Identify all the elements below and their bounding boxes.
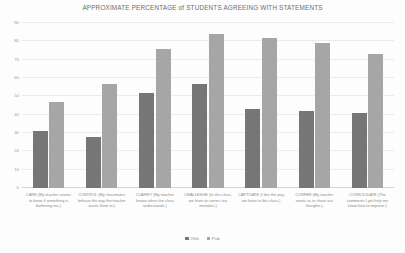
legend-swatch xyxy=(185,237,188,240)
plot-area: 9080706050403020100 xyxy=(22,23,394,188)
chart-title: APPROXIMATE PERCENTAGE of STUDENTS AGREE… xyxy=(0,4,405,11)
y-axis-tick-label: 10 xyxy=(14,166,19,171)
x-axis-tick-label: CONSOLIDATE (The comments I get help me … xyxy=(341,192,394,209)
bar xyxy=(102,84,117,189)
bar xyxy=(33,131,48,188)
bar xyxy=(139,93,154,188)
bar-group xyxy=(341,23,394,188)
bar-group xyxy=(22,23,75,188)
bar-group xyxy=(288,23,341,188)
x-axis-tick-label: CARE (My teacher seems to know if someth… xyxy=(22,192,75,209)
bar xyxy=(315,43,330,188)
bar-group xyxy=(181,23,234,188)
legend-item[interactable]: 25th xyxy=(185,236,199,241)
bar-groups xyxy=(22,23,394,188)
legend-label: Pub xyxy=(212,236,220,241)
x-axis-labels: CARE (My teacher seems to know if someth… xyxy=(22,192,394,209)
y-axis-tick-label: 60 xyxy=(14,75,19,80)
bar xyxy=(262,38,277,188)
bar xyxy=(86,137,101,188)
y-axis-tick-label: 40 xyxy=(14,111,19,116)
x-axis-tick-label: CHALLENGE (In this class, we learn to co… xyxy=(181,192,234,209)
y-axis-tick-label: 30 xyxy=(14,130,19,135)
y-axis-tick-label: 90 xyxy=(14,20,19,25)
x-axis-tick-label: CAPTIVATE (I like the way we learn in th… xyxy=(235,192,288,209)
bar-group xyxy=(235,23,288,188)
bar xyxy=(209,34,224,188)
legend-label: 25th xyxy=(190,236,199,241)
legend-item[interactable]: Pub xyxy=(207,236,220,241)
bar-group xyxy=(75,23,128,188)
chart-legend: 25thPub xyxy=(0,236,405,241)
bar-group xyxy=(128,23,181,188)
bar xyxy=(352,113,367,188)
legend-swatch xyxy=(207,237,210,240)
bar-chart: APPROXIMATE PERCENTAGE of STUDENTS AGREE… xyxy=(0,0,405,253)
y-axis-tick-label: 80 xyxy=(14,38,19,43)
bar xyxy=(156,49,171,188)
bar xyxy=(299,111,314,188)
y-axis-tick-label: 0 xyxy=(17,185,19,190)
x-axis-tick-label: CLARIFY (My teacher knows when the class… xyxy=(128,192,181,209)
y-axis-tick-label: 70 xyxy=(14,56,19,61)
x-axis-tick-label: CONFER (My teacher wants us to share our… xyxy=(288,192,341,209)
bar xyxy=(245,109,260,188)
bar xyxy=(49,102,64,188)
bar xyxy=(368,54,383,188)
y-axis-tick-label: 50 xyxy=(14,93,19,98)
y-axis-tick-label: 20 xyxy=(14,148,19,153)
bar xyxy=(192,84,207,189)
x-axis-tick-label: CONTROL (My classmates behave the way th… xyxy=(75,192,128,209)
